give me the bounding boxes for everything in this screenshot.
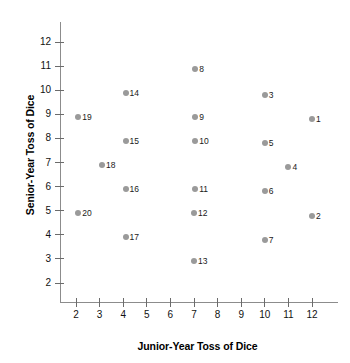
data-point-label: 16: [130, 184, 139, 194]
data-point-label: 19: [82, 112, 91, 122]
data-point-label: 17: [130, 232, 139, 242]
data-point: [309, 213, 315, 219]
y-tick: [55, 258, 64, 259]
data-point: [309, 116, 315, 122]
x-tick: [312, 298, 313, 307]
data-point: [75, 114, 81, 120]
y-axis-title: Senior-Year Toss of Dice: [20, 10, 40, 300]
data-point-label: 8: [199, 64, 204, 74]
data-point-label: 5: [269, 138, 274, 148]
data-point: [285, 164, 291, 170]
x-tick-label: 2: [67, 309, 85, 320]
x-tick-label: 12: [303, 309, 321, 320]
x-tick-label: 11: [279, 309, 297, 320]
data-point-label: 3: [269, 90, 274, 100]
data-point: [75, 210, 81, 216]
data-point: [262, 188, 268, 194]
x-tick: [264, 298, 265, 307]
x-tick-label: 3: [91, 309, 109, 320]
data-point: [99, 162, 105, 168]
data-point-label: 14: [130, 88, 139, 98]
data-point: [192, 138, 198, 144]
data-point-label: 6: [269, 186, 274, 196]
data-point-label: 13: [198, 256, 207, 266]
data-point: [123, 234, 129, 240]
data-point: [123, 90, 129, 96]
data-point-label: 1: [316, 114, 321, 124]
x-tick: [170, 298, 171, 307]
scatter-plot: 23456789101112 23456789101112 1234567891…: [0, 0, 350, 363]
x-tick-label: 9: [232, 309, 250, 320]
x-tick: [217, 298, 218, 307]
y-tick: [55, 283, 64, 284]
data-point-label: 9: [199, 112, 204, 122]
plot-area: 23456789101112 23456789101112 1234567891…: [0, 0, 350, 363]
x-tick-label: 4: [114, 309, 132, 320]
x-tick: [288, 298, 289, 307]
data-point: [262, 237, 268, 243]
y-tick: [55, 234, 64, 235]
data-point-label: 18: [106, 160, 115, 170]
x-axis-line: [60, 302, 338, 303]
y-tick: [55, 138, 64, 139]
data-point: [123, 186, 129, 192]
x-tick-label: 8: [209, 309, 227, 320]
data-point-label: 10: [199, 136, 208, 146]
x-tick: [99, 298, 100, 307]
y-tick: [55, 186, 64, 187]
data-point-label: 20: [82, 208, 91, 218]
data-point-label: 11: [199, 184, 208, 194]
data-point-label: 7: [269, 235, 274, 245]
x-tick-label: 7: [185, 309, 203, 320]
data-point: [262, 92, 268, 98]
x-tick: [123, 298, 124, 307]
x-tick-label: 6: [161, 309, 179, 320]
x-tick: [146, 298, 147, 307]
data-point-label: 15: [130, 136, 139, 146]
data-point: [192, 66, 198, 72]
data-point: [192, 186, 198, 192]
data-point: [262, 140, 268, 146]
data-point-label: 4: [292, 162, 297, 172]
y-tick: [55, 162, 64, 163]
x-tick-label: 10: [256, 309, 274, 320]
data-point-label: 12: [198, 208, 207, 218]
x-axis-title: Junior-Year Toss of Dice: [55, 340, 340, 352]
data-point: [192, 114, 198, 120]
y-tick: [55, 66, 64, 67]
x-tick: [76, 298, 77, 307]
data-point: [191, 210, 197, 216]
y-tick: [55, 42, 64, 43]
y-tick: [55, 90, 64, 91]
x-tick: [194, 298, 195, 307]
data-point: [123, 138, 129, 144]
x-tick-label: 5: [138, 309, 156, 320]
y-tick: [55, 114, 64, 115]
x-tick: [241, 298, 242, 307]
y-tick: [55, 210, 64, 211]
data-point: [191, 258, 197, 264]
data-point-label: 2: [316, 211, 321, 221]
